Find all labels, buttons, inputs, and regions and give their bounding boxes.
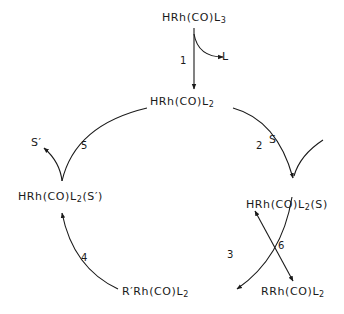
step-label-1: 1 (180, 56, 186, 66)
step-label-5: 5 (81, 141, 87, 151)
cycle-arrows (0, 0, 344, 314)
reagent-S-prime: S′ (31, 137, 42, 148)
step-label-2: 2 (256, 141, 262, 151)
catalytic-cycle-diagram: HRh(CO)L3 L 1 HRh(CO)L2 2 S HRh(CO)L2(S)… (0, 0, 344, 314)
species-bottom: R′Rh(CO)L2 (122, 286, 189, 299)
species-top: HRh(CO)L2 (150, 96, 214, 109)
reagent-L: L (222, 51, 229, 62)
step-label-6: 6 (278, 241, 284, 251)
arrow-S-prime-release (44, 148, 62, 181)
species-right: HRh(CO)L2(S) (246, 199, 328, 212)
reagent-S: S (269, 134, 277, 145)
step-label-4: 4 (81, 253, 87, 263)
arrow-step-5 (62, 108, 147, 181)
arrow-S-enter (294, 140, 323, 176)
arrow-step-2 (233, 108, 293, 178)
species-side: RRh(CO)L2 (261, 286, 325, 299)
arrow-L-release (194, 34, 223, 57)
species-start: HRh(CO)L3 (162, 12, 226, 25)
step-label-3: 3 (227, 250, 233, 260)
species-left: HRh(CO)L2(S′) (18, 191, 103, 204)
arrow-step-4 (62, 213, 118, 289)
arrow-step-6 (255, 211, 293, 281)
